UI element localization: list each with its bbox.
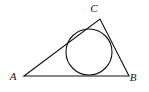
figure-canvas: A C B [0,0,149,92]
vertex-label-a: A [9,70,17,82]
vertex-label-b: B [130,71,137,83]
vertex-label-c: C [90,2,98,14]
triangle-abc [24,19,129,76]
geometry-figure: A C B [0,0,149,92]
inscribed-circle [66,29,112,75]
